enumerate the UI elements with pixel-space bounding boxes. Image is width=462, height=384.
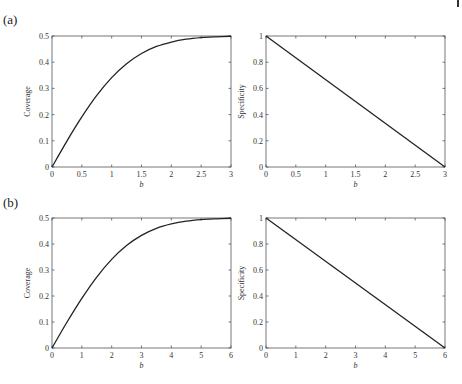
panel-label-b: (b): [3, 195, 18, 210]
x-tick-label: 5: [413, 351, 417, 360]
y-tick-label: 0.4: [39, 58, 49, 67]
x-tick-label: 0.5: [77, 170, 87, 179]
x-axis-label: b: [354, 180, 358, 189]
chart-panel-1: 00.511.522.5300.10.20.30.40.5bCoverage: [23, 32, 233, 189]
x-tick-label: 0.5: [291, 170, 301, 179]
x-axis-label: b: [140, 180, 144, 189]
x-tick-label: 1: [110, 170, 114, 179]
y-tick-label: 0.4: [253, 292, 263, 301]
y-tick-label: 1: [259, 214, 263, 223]
x-tick-label: 4: [169, 351, 173, 360]
series-line-specificity: [266, 36, 445, 167]
y-tick-label: 0.2: [39, 111, 49, 120]
x-tick-label: 1.5: [137, 170, 147, 179]
chart-panel-3: 012345600.10.20.30.40.5bCoverage: [23, 214, 233, 370]
x-tick-label: 0: [50, 170, 54, 179]
x-tick-label: 4: [383, 351, 387, 360]
x-tick-label: 0: [50, 351, 54, 360]
y-tick-label: 0.6: [253, 266, 263, 275]
x-tick-label: 0: [264, 351, 268, 360]
x-tick-label: 3: [229, 170, 233, 179]
x-tick-label: 6: [443, 351, 447, 360]
figure: (a) (b) 00.511.522.5300.10.20.30.40.5bCo…: [0, 0, 462, 384]
y-tick-label: 0.3: [39, 266, 49, 275]
y-tick-label: 0.8: [253, 58, 263, 67]
chart-panel-4: 012345600.20.40.60.81bSpecificity: [237, 214, 447, 370]
y-tick-label: 0.4: [253, 111, 263, 120]
x-tick-label: 1: [324, 170, 328, 179]
y-tick-label: 0.5: [39, 32, 49, 41]
y-axis-label: Specificity: [237, 266, 246, 301]
y-tick-label: 0.8: [253, 240, 263, 249]
x-tick-label: 2: [110, 351, 114, 360]
y-tick-label: 0.5: [39, 214, 49, 223]
y-tick-label: 0.2: [39, 292, 49, 301]
x-tick-label: 2: [324, 351, 328, 360]
y-axis-label: Coverage: [23, 86, 32, 117]
x-tick-label: 3: [443, 170, 447, 179]
x-axis-label: b: [354, 361, 358, 370]
y-tick-label: 0.3: [39, 84, 49, 93]
x-tick-label: 0: [264, 170, 268, 179]
y-tick-label: 0.1: [39, 318, 49, 327]
series-line-coverage: [52, 36, 231, 167]
y-tick-label: 0: [45, 163, 49, 172]
y-tick-label: 0: [259, 163, 263, 172]
x-tick-label: 6: [229, 351, 233, 360]
y-tick-label: 0.4: [39, 240, 49, 249]
chart-panel-2: 00.511.522.5300.20.40.60.81bSpecificity: [237, 32, 447, 189]
y-tick-label: 0: [45, 344, 49, 353]
x-tick-label: 3: [354, 351, 358, 360]
x-tick-label: 1: [294, 351, 298, 360]
x-tick-label: 3: [140, 351, 144, 360]
axes-frame: [52, 36, 231, 167]
series-line-specificity: [266, 218, 445, 348]
y-tick-label: 0.2: [253, 318, 263, 327]
x-tick-label: 2.5: [196, 170, 206, 179]
x-axis-label: b: [140, 361, 144, 370]
x-tick-label: 1.5: [351, 170, 361, 179]
y-tick-label: 0.1: [39, 137, 49, 146]
y-tick-label: 0.2: [253, 137, 263, 146]
x-tick-label: 5: [199, 351, 203, 360]
x-tick-label: 2: [169, 170, 173, 179]
x-tick-label: 2: [383, 170, 387, 179]
series-line-coverage: [52, 218, 231, 348]
y-tick-label: 0: [259, 344, 263, 353]
y-axis-label: Coverage: [23, 267, 32, 298]
y-tick-label: 0.6: [253, 84, 263, 93]
y-tick-label: 1: [259, 32, 263, 41]
axes-frame: [52, 218, 231, 348]
y-axis-label: Specificity: [237, 84, 246, 119]
panel-label-a: (a): [3, 12, 17, 27]
page-edge-mark: [457, 0, 459, 7]
x-tick-label: 1: [80, 351, 84, 360]
x-tick-label: 2.5: [410, 170, 420, 179]
